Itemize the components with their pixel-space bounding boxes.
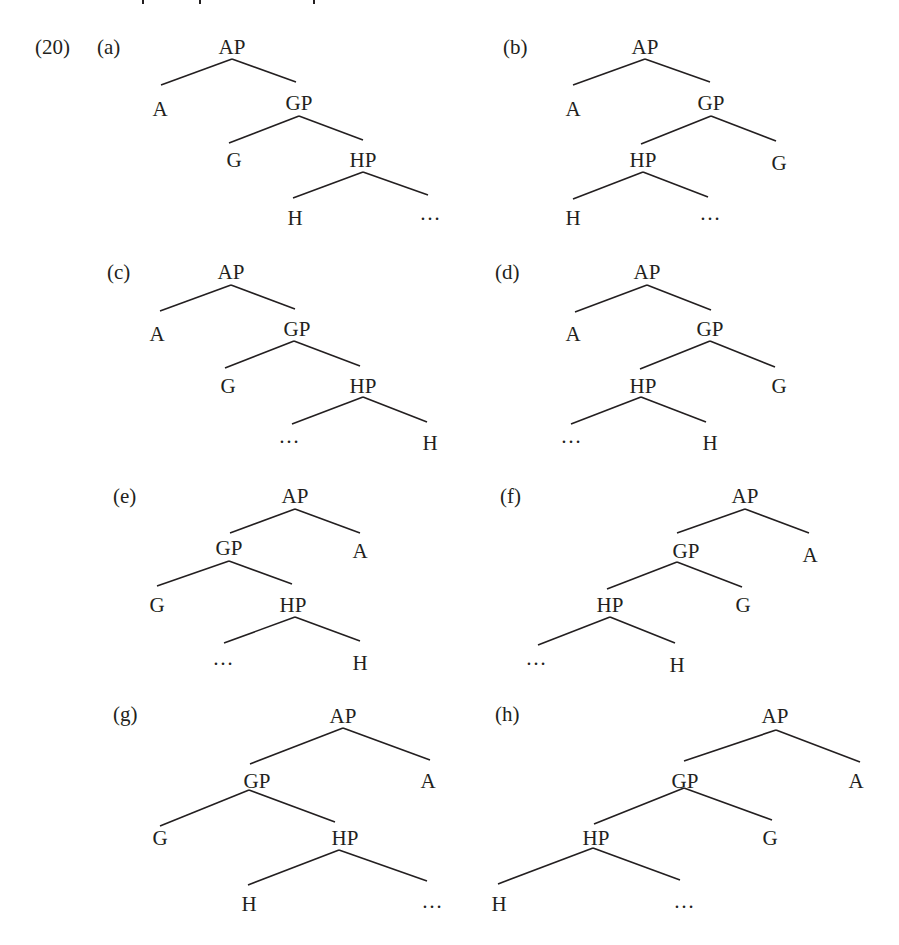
trees-group: (a)APAGPGHPH…(b)APAGPHPGH…(c)APAGPGHP…H(…	[97, 35, 864, 916]
tree-branch	[363, 172, 428, 195]
tree-node: HP	[630, 374, 657, 398]
tree-label: (g)	[113, 702, 138, 726]
tree-branch	[230, 509, 295, 533]
tree-branch	[571, 397, 641, 424]
example-number: (20)	[35, 35, 70, 59]
tree-branch	[607, 562, 677, 589]
tree-node: HP	[280, 593, 307, 617]
tree-branch	[232, 59, 296, 82]
tree-label: (f)	[500, 484, 521, 508]
tree-node: …	[213, 646, 234, 670]
tree-node: A	[352, 539, 368, 563]
tree-branch	[295, 617, 360, 641]
tree-branch	[643, 172, 708, 197]
tree-branch	[231, 285, 295, 309]
tree-branch	[161, 59, 232, 85]
tree-node: AP	[634, 260, 661, 284]
tree-label: (b)	[503, 35, 528, 59]
tree-branch	[645, 59, 710, 82]
tree-branch	[641, 397, 706, 422]
tree-branch	[295, 509, 360, 533]
tree-b: (b)APAGPHPGH…	[503, 35, 787, 230]
tree-node: A	[565, 97, 581, 121]
tree-branch	[160, 285, 231, 311]
tree-branch	[229, 116, 299, 143]
tree-node: G	[220, 374, 235, 398]
tree-node: G	[762, 826, 777, 850]
tree-h: (h)APGPAHPGH…	[491, 702, 864, 916]
tree-node: AP	[219, 35, 246, 59]
tree-node: HP	[583, 826, 610, 850]
tree-node: AP	[732, 484, 759, 508]
tree-g: (g)APGPAGHPH…	[113, 702, 443, 916]
tree-node: AP	[762, 704, 789, 728]
tree-label: (h)	[495, 702, 520, 726]
tree-branch	[684, 730, 776, 761]
tree-node: G	[771, 374, 786, 398]
tree-node: AP	[218, 260, 245, 284]
tree-node: GP	[698, 91, 725, 115]
tree-d: (d)APAGPHPG…H	[495, 260, 787, 455]
tree-label: (e)	[113, 484, 136, 508]
tree-node: H	[669, 653, 684, 677]
tree-branch	[498, 848, 593, 884]
tree-branch	[224, 617, 295, 643]
tree-node: A	[420, 769, 436, 793]
tree-branch	[293, 172, 363, 198]
tree-node: …	[526, 646, 547, 670]
tree-branch	[157, 561, 229, 586]
tree-node: H	[241, 892, 256, 916]
tree-node: G	[735, 593, 750, 617]
tree-node: GP	[216, 536, 243, 560]
tree-node: H	[287, 206, 302, 230]
tree-a: (a)APAGPGHPH…	[97, 35, 441, 230]
tree-branch	[248, 850, 339, 885]
tree-e: (e)APGPAGHP…H	[113, 484, 368, 675]
tree-branch	[610, 617, 675, 643]
tree-node: AP	[330, 704, 357, 728]
tree-branch	[641, 116, 711, 144]
tree-node: G	[226, 148, 241, 172]
tree-node: GP	[284, 317, 311, 341]
tree-node: H	[352, 651, 367, 675]
tree-node: G	[771, 151, 786, 175]
tree-node: A	[149, 322, 165, 346]
tree-node: A	[802, 543, 818, 567]
tree-branch	[710, 341, 775, 367]
tree-node: AP	[632, 35, 659, 59]
tree-node: …	[422, 889, 443, 913]
tree-label: (d)	[495, 260, 520, 284]
tree-branch	[677, 509, 745, 533]
tree-node: H	[491, 892, 506, 916]
syntax-trees-svg: (20) (a)APAGPGHPH…(b)APAGPHPGH…(c)APAGPG…	[0, 0, 899, 945]
tree-branch	[294, 341, 360, 366]
tree-node: A	[152, 97, 168, 121]
tree-branch	[640, 341, 710, 369]
tree-f: (f)APGPAHPG…H	[500, 484, 818, 677]
tree-node: …	[674, 889, 695, 913]
tree-node: GP	[697, 317, 724, 341]
tree-diagram-figure: (20) (a)APAGPGHPH…(b)APAGPHPGH…(c)APAGPG…	[0, 0, 899, 945]
tree-node: HP	[350, 148, 377, 172]
tree-node: GP	[672, 769, 699, 793]
tree-branch	[647, 285, 711, 310]
tree-node: HP	[332, 826, 359, 850]
tree-node: H	[702, 431, 717, 455]
tree-node: G	[149, 593, 164, 617]
tree-node: GP	[286, 91, 313, 115]
tree-node: …	[279, 424, 300, 448]
tree-branch	[229, 561, 292, 584]
tree-branch	[160, 790, 249, 826]
tree-branch	[594, 788, 684, 824]
tree-node: G	[152, 826, 167, 850]
tree-branch	[292, 397, 363, 424]
tree-node: A	[848, 769, 864, 793]
tree-branch	[677, 562, 742, 587]
cropped-text-fragment	[142, 0, 315, 4]
tree-branch	[538, 617, 610, 645]
tree-node: H	[422, 431, 437, 455]
tree-branch	[343, 728, 430, 760]
tree-branch	[363, 397, 427, 422]
tree-node: …	[420, 201, 441, 225]
tree-label: (c)	[107, 260, 130, 284]
